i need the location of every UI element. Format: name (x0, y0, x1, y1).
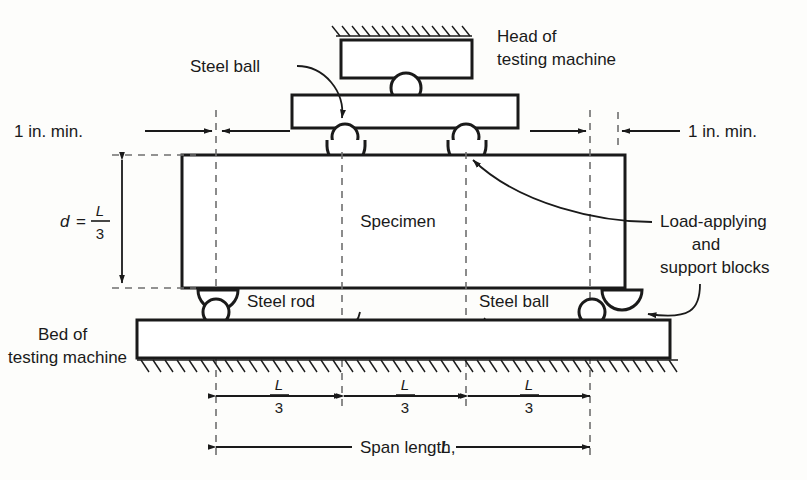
third-1-denominator: 3 (275, 399, 283, 416)
bed-of-machine-label-line1: Bed of (38, 325, 87, 344)
load-blocks-label-line1: Load-applying (660, 212, 767, 231)
hatching-bed (137, 360, 678, 372)
flexural-test-diagram: Head of testing machine Steel ball Speci… (0, 0, 807, 480)
steel-ball-bottom-label: Steel ball (479, 292, 549, 311)
bed-of-machine-label-line2: testing machine (8, 348, 127, 367)
one-inch-min-left-label: 1 in. min. (14, 122, 83, 141)
specimen-label: Specimen (360, 212, 436, 231)
head-of-machine-label-line2: testing machine (497, 50, 616, 69)
steel-rod-label: Steel rod (247, 292, 315, 311)
depth-fraction-denominator: 3 (96, 225, 104, 242)
support-block-right (602, 290, 642, 310)
load-distributing-bar (292, 95, 518, 128)
head-of-machine-label-line1: Head of (497, 27, 557, 46)
depth-symbol-label: d (60, 212, 70, 231)
load-blocks-label-line3: support blocks (660, 258, 770, 277)
load-blocks-leader-lower (648, 284, 700, 316)
span-length-symbol: L (441, 438, 450, 457)
hatching-head (332, 26, 472, 36)
depth-fraction: L 3 (91, 202, 110, 242)
depth-fraction-numerator: L (96, 202, 104, 219)
bed-of-testing-machine-block (137, 320, 670, 358)
third-3-numerator: L (525, 376, 533, 393)
third-1-numerator: L (275, 376, 283, 393)
load-blocks-label-line2: and (692, 235, 720, 254)
one-inch-min-right-label: 1 in. min. (688, 122, 757, 141)
third-3-denominator: 3 (525, 399, 533, 416)
steel-ball-top-label: Steel ball (190, 57, 260, 76)
diagram-canvas: Head of testing machine Steel ball Speci… (0, 0, 807, 480)
depth-equals-label: = (76, 212, 86, 231)
third-2-numerator: L (401, 376, 409, 393)
third-2-denominator: 3 (401, 399, 409, 416)
